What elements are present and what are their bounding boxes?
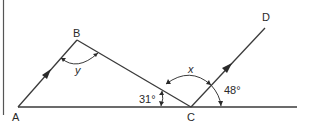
angle-label-48: 48° xyxy=(224,84,241,96)
geometry-diagram: A B C D y x 31° 48° xyxy=(0,0,310,127)
angle-arc-y xyxy=(61,53,98,64)
point-label-b: B xyxy=(73,27,80,39)
angle-arc-x xyxy=(166,75,211,85)
angle-label-x: x xyxy=(187,63,194,75)
point-label-d: D xyxy=(262,11,270,23)
point-label-a: A xyxy=(12,111,20,123)
arrowhead-icon xyxy=(206,80,211,85)
point-label-c: C xyxy=(187,111,195,123)
angle-label-31: 31° xyxy=(139,93,156,105)
angle-label-y: y xyxy=(74,64,82,76)
segment-bc xyxy=(77,40,191,107)
arrowhead-icon xyxy=(159,91,164,95)
arrowhead-icon xyxy=(159,101,164,106)
